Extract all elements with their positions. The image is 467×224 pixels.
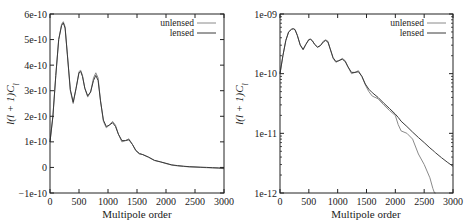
y-tick-label: 1e-10 xyxy=(254,68,277,79)
right-legend: unlensed lensed xyxy=(390,18,446,38)
y-tick-label: 0 xyxy=(42,162,47,173)
right-y-axis-title: l(l + 1)Cl xyxy=(233,83,250,125)
x-tick-label: 1500 xyxy=(357,196,377,207)
x-tick-label: 3000 xyxy=(443,196,463,207)
x-tick-label: 3000 xyxy=(214,196,234,207)
unlensed-series-line xyxy=(280,29,436,193)
left-plot-lines xyxy=(50,22,224,169)
y-tick-label: 2e-10 xyxy=(24,111,47,122)
x-tick-label: 0 xyxy=(278,196,283,207)
left-x-axis: 050010001500200025003000 xyxy=(48,14,235,207)
y-tick-label: −1e-10 xyxy=(19,188,47,199)
x-tick-label: 1000 xyxy=(98,196,118,207)
x-tick-label: 2000 xyxy=(156,196,176,207)
left-x-axis-title: Multipole order xyxy=(102,208,172,220)
y-tick-label: 5e-10 xyxy=(24,34,47,45)
x-tick-label: 0 xyxy=(48,196,53,207)
y-tick-label: 1e-12 xyxy=(254,188,277,199)
unlensed-series-line xyxy=(50,22,224,169)
right-legend-unlensed-label: unlensed xyxy=(390,18,424,28)
x-tick-label: 1500 xyxy=(127,196,147,207)
y-tick-label: 1e-11 xyxy=(255,128,277,139)
right-x-axis: 050010001500200025003000 xyxy=(278,14,464,207)
right-chart: 050010001500200025003000 1e-091e-101e-11… xyxy=(233,9,463,221)
x-tick-label: 2000 xyxy=(385,196,405,207)
left-legend-lensed-label: lensed xyxy=(170,28,195,38)
left-plot-frame xyxy=(50,14,224,193)
left-chart: 050010001500200025003000 6e-105e-104e-10… xyxy=(4,9,234,221)
left-legend-unlensed-label: unlensed xyxy=(160,18,194,28)
x-tick-label: 500 xyxy=(72,196,87,207)
right-plot-lines xyxy=(280,29,453,193)
left-legend: unlensed lensed xyxy=(160,18,216,38)
lensed-series-line xyxy=(50,23,224,168)
x-tick-label: 500 xyxy=(301,196,316,207)
figure: 050010001500200025003000 6e-105e-104e-10… xyxy=(0,0,467,224)
right-x-axis-title: Multipole order xyxy=(331,208,401,220)
right-plot-frame xyxy=(280,14,453,193)
lensed-series-line xyxy=(280,29,453,167)
right-legend-lensed-label: lensed xyxy=(400,28,425,38)
x-tick-label: 1000 xyxy=(328,196,348,207)
x-tick-label: 2500 xyxy=(414,196,434,207)
left-y-axis-title: l(l + 1)Cl xyxy=(4,83,21,125)
y-tick-label: 1e-09 xyxy=(254,9,277,20)
x-tick-label: 2500 xyxy=(185,196,205,207)
y-tick-label: 1e-10 xyxy=(24,136,47,147)
y-tick-label: 4e-10 xyxy=(24,60,47,71)
y-tick-label: 6e-10 xyxy=(24,9,47,20)
y-tick-label: 3e-10 xyxy=(24,85,47,96)
